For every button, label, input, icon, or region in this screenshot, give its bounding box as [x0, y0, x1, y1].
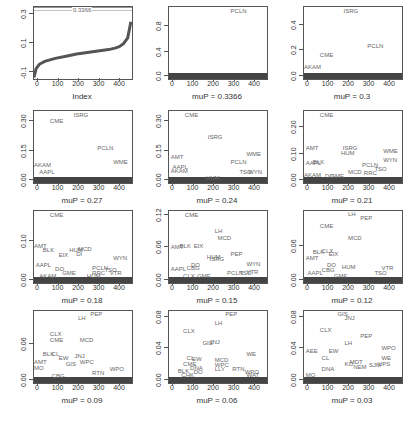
chart-panel: CMEAMTBLKHUMMCDDIEIXWYNAAPLDOPCLNTSORRCV… [0, 204, 135, 308]
x-tick-label: 0 [35, 284, 39, 291]
weights-band [304, 277, 402, 283]
annotation-text: 0.3366 [72, 7, 92, 13]
x-axis-label: muP = 0.06 [168, 396, 266, 405]
x-tick-label: 100 [52, 184, 64, 191]
point-label: WPO [110, 366, 124, 372]
point-label: AKAM [304, 64, 321, 70]
y-tick-label: 0.00 [20, 173, 27, 187]
point-label: EIX [329, 251, 339, 257]
x-tick-label: 400 [383, 284, 395, 291]
point-label: ISRG [208, 134, 223, 140]
point-label: WPC [80, 359, 94, 365]
x-tick-label: 300 [228, 284, 240, 291]
point-label: WME [383, 148, 398, 154]
point-label: RRC [364, 170, 377, 176]
x-axis-label: muP = 0.03 [303, 396, 401, 405]
x-tick-label: 300 [93, 284, 105, 291]
x-axis: 0100200300400 [303, 384, 403, 394]
y-tick-mark [164, 379, 168, 380]
point-label: LH [215, 228, 223, 234]
y-tick-label: 0.04 [155, 342, 162, 356]
point-label: WME [246, 151, 261, 157]
x-tick-label: 400 [248, 184, 260, 191]
point-label: AKAM [34, 162, 51, 168]
x-tick-label: 0 [170, 384, 174, 391]
y-tick-mark [164, 279, 168, 280]
plot-area: GISJNJCLXPEPLHAEEEWWPOCLWEMDTKONEMUPSSJM… [303, 310, 403, 384]
chart-panel: CMELHMCDAMTBLKEIXPEPHUMISRGWYNDOCBGAAPLP… [135, 204, 270, 308]
y-tick-label: 0.00 [20, 373, 27, 387]
x-tick-label: 100 [322, 284, 334, 291]
point-label: VTR [246, 269, 258, 275]
y-tick-label: 0.06 [155, 240, 162, 254]
point-label: DNA [322, 366, 335, 372]
point-label: AMT [306, 145, 319, 151]
y-tick-mark [164, 150, 168, 151]
point-label: CME [320, 112, 333, 118]
x-tick-label: 100 [52, 284, 64, 291]
x-tick-label: 400 [113, 80, 125, 87]
point-label: GME [334, 273, 348, 279]
x-tick-label: 200 [342, 284, 354, 291]
point-label: CBG [52, 373, 65, 379]
y-tick-mark [299, 279, 303, 280]
y-tick-label: 0.8 [155, 21, 162, 31]
x-tick-label: 100 [187, 284, 199, 291]
chart-panel: LHPEPCLXCMEMCDBLKCLJNJEWAMTGISWPCMORTNWP… [0, 304, 135, 408]
x-tick-label: 200 [72, 284, 84, 291]
point-label: GME [62, 270, 76, 276]
point-label: KO [344, 361, 353, 367]
point-label: AAPL [308, 270, 323, 276]
y-tick-label: 0.10 [290, 148, 297, 162]
x-tick-label: 100 [52, 80, 64, 87]
y-tick-label: 0.0 [290, 71, 297, 81]
point-label: CLX [183, 273, 195, 279]
point-label: SJM [369, 362, 381, 368]
x-tick-label: 100 [187, 384, 199, 391]
plot-area: LHPEPCMEMCDCLXBLKEIXAMTDOHUMCBGVTRAAPLTS… [303, 210, 403, 284]
y-tick-mark [29, 240, 33, 241]
y-tick-label: 0.3 [20, 9, 27, 19]
point-label: AMT [34, 359, 47, 365]
x-tick-label: 200 [342, 184, 354, 191]
y-tick-label: 0.08 [290, 310, 297, 324]
y-tick-mark [29, 179, 33, 180]
x-tick-label: 100 [187, 184, 199, 191]
point-label: AKAM [171, 168, 188, 174]
sorted-curve [34, 7, 132, 79]
y-tick-label: 0.1 [20, 38, 27, 48]
point-label: BLK [43, 247, 54, 253]
x-tick-label: 300 [363, 80, 375, 87]
chart-panel: PEPLHCLXGISJNJWECLEWMCDCMEWPCLLYRTNDNABL… [135, 304, 270, 408]
x-tick-label: 400 [113, 184, 125, 191]
weights-band [304, 377, 402, 383]
point-label: EW [329, 348, 339, 354]
chart-panel: GISJNJCLXPEPLHAEEEWWPOCLWEMDTKONEMUPSSJM… [270, 304, 405, 408]
y-tick-mark [164, 246, 168, 247]
y-tick-mark [164, 179, 168, 180]
plot-area: PEPLHCLXGISJNJWECLEWMCDCMEWPCLLYRTNDNABL… [168, 310, 268, 384]
x-tick-label: 200 [207, 284, 219, 291]
point-label: DI [76, 251, 82, 257]
y-tick-label: 0.04 [290, 342, 297, 356]
x-tick-label: 300 [363, 184, 375, 191]
x-tick-label: 300 [93, 384, 105, 391]
plot-area: LHPEPCLXCMEMCDBLKCLJNJEWAMTGISWPCMORTNWP… [33, 310, 133, 384]
point-label: LH [348, 211, 356, 217]
x-axis: 0100200300400 [168, 184, 268, 194]
point-label: MO [306, 372, 316, 378]
plot-area: CMEAMTBLKHUMMCDDIEIXWYNAAPLDOPCLNTSORRCV… [33, 210, 133, 284]
chart-panel: ISRGPCLNCMEAKAM0.00.20.40100200300400muP… [270, 0, 405, 104]
point-label: AMT [306, 255, 319, 261]
point-label: PCLN [231, 159, 247, 165]
point-label: JNJ [344, 315, 354, 321]
x-axis-label: muP = 0.3366 [168, 92, 266, 101]
x-tick-label: 400 [113, 284, 125, 291]
point-label: AKAM [39, 273, 56, 279]
x-tick-label: 300 [363, 284, 375, 291]
x-tick-label: 400 [383, 184, 395, 191]
x-axis: 0100200300400 [33, 284, 133, 294]
x-tick-label: 400 [383, 80, 395, 87]
x-tick-label: 0 [305, 284, 309, 291]
chart-panel: LHPEPCMEMCDCLXBLKEIXAMTDOHUMCBGVTRAAPLTS… [270, 204, 405, 308]
